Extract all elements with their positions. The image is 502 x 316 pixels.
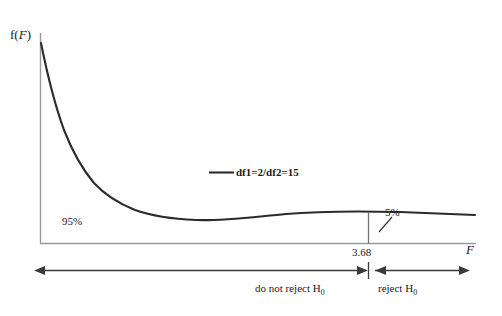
critical-value-label: 3.68 [352,247,371,258]
arrowhead-right [459,266,470,275]
y-axis-label-prefix: f( [10,27,19,42]
area-label-5-percent: 5% [385,207,400,218]
reject-arrow [375,266,470,275]
y-axis-label: f(F) [10,28,31,41]
arrowhead-inner-left [357,266,368,275]
region-label-reject-text: reject H [378,282,413,294]
legend-label: df1=2/df2=15 [236,167,299,178]
region-label-do-not-reject-text: do not reject H [255,282,321,294]
x-axis-label: F [466,243,474,256]
arrowhead-left [34,266,45,275]
five-percent-leader-line [379,217,392,232]
do-not-reject-arrow [34,266,368,275]
y-axis-label-suffix: ) [27,27,31,42]
y-axis-label-variable: F [19,27,27,42]
area-label-95-percent: 95% [62,216,82,227]
f-density-curve [41,43,475,220]
arrowhead-inner-right [375,266,386,275]
f-distribution-figure: f(F) F 95% 5% 3.68 df1=2/df2=15 do not r… [0,0,502,316]
region-label-reject: reject H0 [378,283,417,297]
region-label-do-not-reject: do not reject H0 [255,283,325,297]
region-label-reject-subscript: 0 [413,288,417,297]
chart-canvas [0,0,502,316]
region-label-do-not-reject-subscript: 0 [321,288,325,297]
